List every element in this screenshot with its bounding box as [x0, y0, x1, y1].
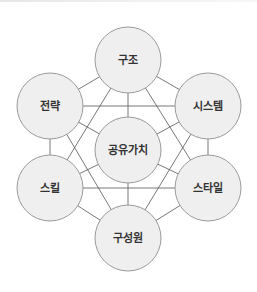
node-shared-values: 공유가치 — [95, 117, 161, 183]
node-systems: 시스템 — [175, 73, 241, 139]
node-style: 스타일 — [175, 155, 241, 221]
nodes: 구조 전략 시스템 공유가치 스킬 스타일 구성원 — [17, 27, 241, 271]
node-label-systems: 시스템 — [193, 99, 223, 113]
node-strategy: 전략 — [17, 73, 83, 139]
node-label-style: 스타일 — [193, 181, 223, 195]
7s-framework-diagram: 구조 전략 시스템 공유가치 스킬 스타일 구성원 — [0, 0, 257, 292]
node-label-structure: 구조 — [118, 54, 138, 67]
node-label-strategy: 전략 — [40, 99, 60, 113]
node-label-shared-values: 공유가치 — [108, 143, 148, 157]
node-staff: 구성원 — [95, 205, 161, 271]
node-structure: 구조 — [95, 27, 161, 93]
node-skills: 스킬 — [17, 155, 83, 221]
node-label-staff: 구성원 — [113, 231, 143, 245]
node-label-skills: 스킬 — [40, 182, 60, 195]
